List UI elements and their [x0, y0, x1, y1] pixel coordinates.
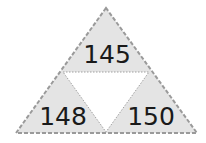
bottom-left-number: 148 — [39, 102, 87, 131]
bottom-right-number: 150 — [127, 102, 175, 131]
top-number: 145 — [83, 40, 131, 69]
number-triangle-diagram: 145 148 150 — [0, 0, 206, 143]
